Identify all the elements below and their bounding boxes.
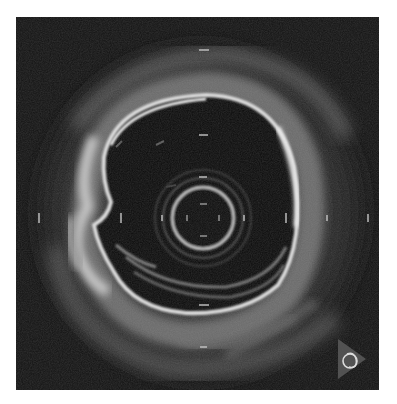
ivus-scan: [16, 17, 379, 390]
speckle-noise: [16, 17, 379, 390]
ivus-image: [16, 17, 379, 390]
